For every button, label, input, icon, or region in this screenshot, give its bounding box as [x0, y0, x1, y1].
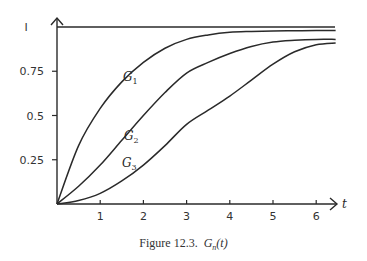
y-tick-label: 0.75: [20, 65, 45, 78]
x-tick-label: 4: [226, 210, 233, 223]
label-g2: G2: [124, 129, 139, 145]
x-tick-label: 2: [140, 210, 147, 223]
caption-text: Figure 12.3.: [139, 236, 197, 250]
caption-math: Gn(t): [204, 236, 228, 250]
curve-g2: [57, 39, 336, 204]
series-curves: [57, 31, 336, 204]
label-g1: G1: [123, 70, 138, 86]
figure-caption: Figure 12.3. Gn(t): [0, 236, 367, 252]
x-axis-label: t: [342, 197, 347, 211]
x-tick-label: 3: [183, 210, 190, 223]
x-tick-label: 5: [270, 210, 277, 223]
y-ticks: 0.250.50.75I: [20, 21, 58, 167]
series-labels: G1G2G3: [122, 70, 139, 172]
y-tick-label: 0.25: [20, 154, 45, 167]
y-axis: [51, 18, 63, 204]
label-g3: G3: [122, 156, 137, 172]
y-tick-label: 0.5: [27, 110, 45, 123]
x-tick-label: 6: [313, 210, 320, 223]
y-tick-label: I: [24, 21, 27, 34]
x-tick-label: 1: [97, 210, 104, 223]
chart-canvas: t 123456 0.250.50.75I G1G2G3: [0, 0, 367, 261]
